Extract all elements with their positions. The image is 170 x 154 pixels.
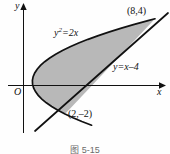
- point-label-2-minus2: (2,–2): [68, 109, 92, 119]
- origin-label: O: [14, 87, 21, 97]
- x-axis-label: x: [157, 87, 161, 97]
- figure-caption: 图 5-15: [0, 143, 170, 154]
- y-axis-arrow: [20, 3, 26, 10]
- figure-container: y x O (8,4) (2,–2) y2=2x y=x–4 图 5-15: [0, 0, 170, 154]
- point-label-8-4: (8,4): [127, 6, 146, 16]
- line-equation-label: y=x–4: [113, 62, 139, 72]
- y-axis-label: y: [15, 1, 19, 11]
- parabola-eq-rest: =2x: [62, 27, 78, 38]
- parabola-equation-label: y2=2x: [54, 27, 78, 38]
- plot-svg: [0, 0, 170, 154]
